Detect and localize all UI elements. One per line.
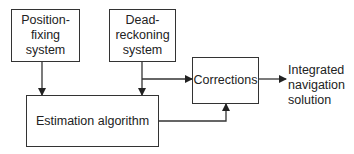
integrated-navigation-solution-label: Integrated navigation solution bbox=[288, 63, 345, 108]
estimation-algorithm-label: Estimation algorithm bbox=[36, 114, 149, 129]
position-fixing-label: Position- fixing system bbox=[21, 13, 70, 58]
estimation-algorithm-block: Estimation algorithm bbox=[26, 95, 159, 147]
dead-reckoning-label: Dead- reckoning system bbox=[115, 13, 169, 58]
corrections-label: Corrections bbox=[194, 73, 258, 88]
dead-reckoning-system-block: Dead- reckoning system bbox=[109, 9, 176, 62]
position-fixing-system-block: Position- fixing system bbox=[11, 9, 80, 62]
corrections-block: Corrections bbox=[192, 57, 259, 104]
